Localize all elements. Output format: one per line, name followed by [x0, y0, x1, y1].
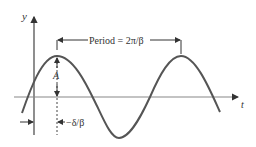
amplitude-label: A [52, 70, 60, 81]
t-axis-label: t [241, 99, 244, 110]
phase-label: −δ/β [66, 117, 84, 128]
y-axis-label: y [21, 10, 27, 22]
sinusoid-diagram: y t Period = 2π/β A −δ/β [0, 0, 256, 147]
period-label: Period = 2π/β [89, 35, 144, 46]
